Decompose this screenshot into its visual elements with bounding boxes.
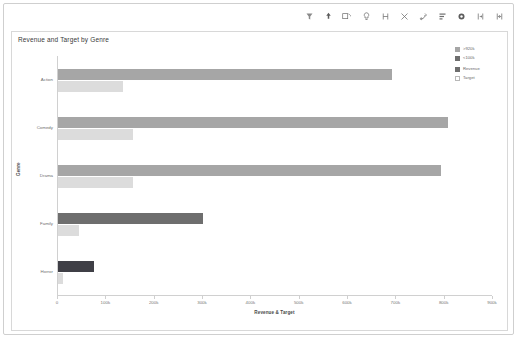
bar-target[interactable] — [58, 225, 79, 236]
x-axis-tick-label: 400k — [246, 296, 256, 305]
x-axis-tick-label: 700k — [391, 296, 401, 305]
y-axis-category-label: Family — [40, 221, 53, 226]
legend-label: >920k — [463, 47, 475, 51]
bar-revenue[interactable] — [58, 69, 392, 80]
expand-hierarchy-icon[interactable] — [398, 10, 410, 22]
bar-group: Drama — [57, 165, 492, 213]
x-axis-tick-label: 200k — [149, 296, 159, 305]
focus-mode-icon[interactable] — [474, 10, 486, 22]
filter-funnel-icon[interactable] — [303, 10, 315, 22]
bar-target[interactable] — [58, 177, 133, 188]
bar-target[interactable] — [58, 129, 133, 140]
bar-group: Horror — [57, 261, 492, 309]
expand-fullscreen-icon[interactable] — [493, 10, 505, 22]
x-axis-tick-label: 500k — [294, 296, 304, 305]
x-axis-title: Revenue & Target — [57, 310, 492, 315]
legend-swatch — [455, 47, 460, 52]
y-axis-category-label: Action — [41, 77, 53, 82]
chart-title: Revenue and Target by Genre — [18, 36, 109, 43]
x-axis-tick-label: 300k — [197, 296, 207, 305]
bar-revenue[interactable] — [58, 117, 448, 128]
drill-through-icon[interactable] — [417, 10, 429, 22]
x-axis-tick-label: 800k — [439, 296, 449, 305]
edit-pencil-icon[interactable] — [341, 10, 353, 22]
y-axis-category-label: Horror — [41, 269, 53, 274]
more-options-icon[interactable] — [455, 10, 467, 22]
legend-item[interactable]: >920k — [455, 46, 501, 52]
drill-mode-icon[interactable] — [379, 10, 391, 22]
y-axis-title: Genre — [16, 162, 21, 176]
y-axis-category-label: Drama — [40, 173, 53, 178]
bar-revenue[interactable] — [58, 261, 94, 272]
lightbulb-insights-icon[interactable] — [360, 10, 372, 22]
bar-group: Comedy — [57, 117, 492, 165]
bar-group: Family — [57, 213, 492, 261]
visual-container: Revenue and Target by Genre >920k <100k — [0, 0, 517, 338]
x-axis-tick-label: 900k — [487, 296, 497, 305]
chart-card: Revenue and Target by Genre >920k <100k — [3, 3, 514, 335]
bar-revenue[interactable] — [58, 165, 441, 176]
x-axis-tick-label: 0 — [56, 296, 58, 305]
x-axis-tick-label: 100k — [101, 296, 111, 305]
plot-area: ActionComedyDramaFamilyHorror0100k200k30… — [57, 56, 492, 296]
y-axis-category-label: Comedy — [37, 125, 53, 130]
bar-group: Action — [57, 69, 492, 117]
sort-bars-icon[interactable] — [436, 10, 448, 22]
x-axis-tick-label: 600k — [342, 296, 352, 305]
drill-down-arrow-icon[interactable] — [322, 10, 334, 22]
chart-panel: Revenue and Target by Genre >920k <100k — [11, 31, 508, 331]
visual-header-toolbar — [4, 4, 513, 28]
bar-target[interactable] — [58, 81, 123, 92]
bar-target[interactable] — [58, 273, 63, 284]
bar-revenue[interactable] — [58, 213, 203, 224]
